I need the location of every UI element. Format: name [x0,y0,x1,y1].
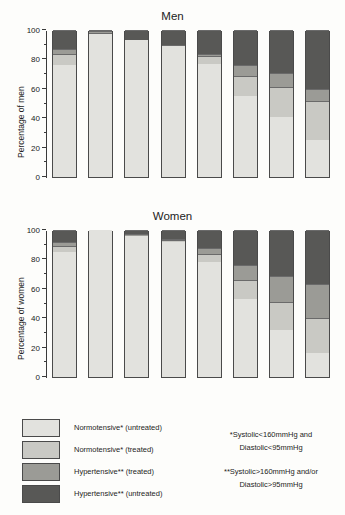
bar-segment [162,30,185,45]
bar-segment [162,230,185,239]
y-tick-label: 20 [31,143,40,152]
stacked-bar[interactable] [305,231,330,378]
bar-segment [89,30,112,31]
y-tick-label: 60 [31,284,40,293]
bar-segment [306,101,329,141]
stacked-bar[interactable] [269,231,294,378]
stacked-bar[interactable] [52,31,77,178]
stacked-bar[interactable] [88,31,113,178]
bar-segment [306,318,329,353]
bar-segment [162,242,185,377]
bar-segment [234,96,257,177]
y-tick-label: 40 [31,314,40,323]
bar-segment [89,34,112,177]
footnote-2: Diastolic<95mmHg [198,441,344,454]
bar-segment [125,230,148,234]
bars-women: Allages16-2425-3435-4445-5455-6465-7475+ [52,231,339,378]
y-tick-major [42,58,46,59]
y-tick-minor [44,361,47,362]
stacked-bar[interactable] [197,231,222,378]
legend-item[interactable]: Normotensive* (treated) [22,440,202,462]
legend-label: Normotensive* (treated) [74,445,154,454]
y-tick-label: 40 [31,114,40,123]
stacked-bar[interactable] [233,231,258,378]
legend-swatch [22,485,60,503]
bar-segment [53,230,76,242]
bar-segment [53,246,76,252]
y-tick-major [42,176,46,177]
y-tick-major [42,88,46,89]
y-tick-minor [44,303,47,304]
bar-segment [270,87,293,116]
panel-women: Women Percentage of women 020406080100 A… [0,208,345,413]
stacked-bar[interactable] [124,31,149,178]
stacked-bar[interactable] [161,231,186,378]
stacked-bar[interactable] [233,31,258,178]
bar-segment [198,56,221,63]
bar-segment [198,64,221,177]
y-tick-minor [44,44,47,45]
y-tick-major [42,347,46,348]
legend-item[interactable]: Normotensive* (untreated) [22,418,202,440]
plot-area-men: 020406080100 Allages16-2425-3435-4445-54… [46,31,339,177]
y-tick-minor [44,332,47,333]
stacked-bar[interactable] [269,31,294,178]
bar-segment [198,248,221,254]
y-tick-major [42,258,46,259]
stacked-bar[interactable] [161,31,186,178]
panel-title-men: Men [0,10,345,22]
legend-label: Normotensive* (untreated) [74,423,162,432]
y-tick-minor [44,244,47,245]
legend-item[interactable]: Hypertensive** (treated) [22,462,202,484]
y-tick-label: 0 [36,173,40,182]
stacked-bar[interactable] [52,231,77,378]
bar-segment [125,236,148,377]
panel-title-women: Women [0,210,345,222]
bar-segment [270,73,293,88]
y-tick-minor [44,103,47,104]
panel-men: Men Percentage of men 020406080100 Allag… [0,8,345,213]
cut-off-title-sliver [0,0,345,8]
y-tick-minor [44,161,47,162]
y-axis-line-women [46,231,47,378]
bar-segment [198,54,221,57]
bar-segment [162,240,185,241]
bar-segment [234,280,257,299]
y-axis-label-men: Percentage of men [16,86,26,158]
legend: Normotensive* (untreated)Normotensive* (… [22,418,202,506]
bar-segment [270,302,293,330]
bar-segment [234,299,257,377]
stacked-bar[interactable] [197,31,222,178]
footnote-1: *Systolic<160mmHg and [198,428,344,441]
stacked-bar[interactable] [124,231,149,378]
bar-segment [53,242,76,246]
bar-segment [53,252,76,377]
y-tick-label: 20 [31,343,40,352]
bar-segment [234,265,257,280]
bar-segment [53,65,76,177]
y-tick-major [42,288,46,289]
bar-segment [306,89,329,101]
y-tick-major [42,317,46,318]
y-axis-label-women: Percentage of women [16,277,26,360]
bar-segment [125,234,148,235]
bar-segment [270,230,293,276]
stacked-bar[interactable] [88,231,113,378]
y-tick-label: 80 [31,55,40,64]
bar-segment [234,30,257,65]
footnote-4: Diastolic>95mmHg [198,478,344,491]
legend-label: Hypertensive** (untreated) [74,489,162,498]
stacked-bar[interactable] [305,31,330,178]
bar-segment [125,30,148,40]
bar-segment [306,30,329,89]
bar-segment [162,239,185,240]
bar-segment [125,40,148,177]
bar-segment [234,76,257,97]
bar-segment [89,33,112,34]
y-tick-label: 80 [31,255,40,264]
bar-segment [89,230,112,377]
bar-segment [162,45,185,46]
bar-segment [198,262,221,377]
legend-item[interactable]: Hypertensive** (untreated) [22,484,202,506]
y-tick-major [42,117,46,118]
